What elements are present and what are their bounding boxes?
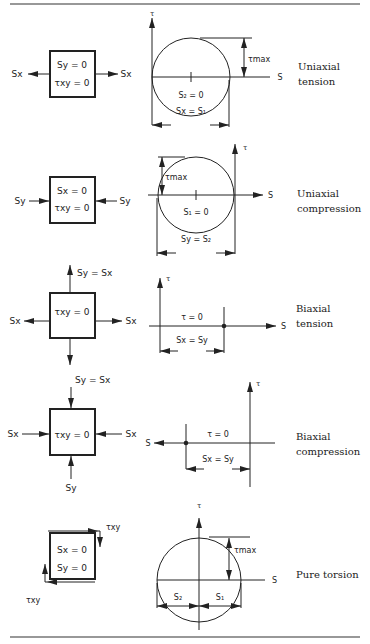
row-biaxial-tension: τxy = 0 Sy = Sx Sx Sx τ S τ = 0 Sx = Sy … [9,265,333,365]
top-load-label: Sy = Sx [77,268,113,278]
case-label-line1: Pure torsion [296,569,359,580]
row-pure-torsion: Sx = 0 Sy = 0 τxy τxy τ S τmax [26,502,359,630]
tau-axis-label: τ [243,144,247,152]
right-load-label: Sx [120,69,132,79]
stress-element: Sy = 0 τxy = 0 Sx Sx [11,51,132,97]
stress-element: Sx = 0 τxy = 0 Sy Sy [14,177,131,223]
element-line2: Sy = 0 [57,563,87,573]
tau-axis-label: τ [150,10,154,18]
top-load-label: Sy = Sx [75,375,111,385]
element-line1: Sx = 0 [57,545,87,555]
element-line1: Sy = 0 [57,60,87,70]
dim-label: Sx = Sy [202,455,234,464]
left-load-label: Sy [14,196,26,206]
mohr-circle-diagram: τ S τmax S₂ S₁ [157,502,277,630]
case-label-line2: compression [296,446,361,457]
s-axis-label: S [268,191,273,200]
element-line2: τxy = 0 [54,78,89,88]
shear-arrowhead-right [97,537,103,547]
element-line1: τxy = 0 [54,430,89,440]
tau-axis-label: τ [166,275,170,283]
case-label-line1: Biaxial [296,431,331,442]
s-axis-label: S [272,576,277,585]
mohr-circle-diagram: τ S τ = 0 Sx = Sy [149,275,286,353]
shear-arrowhead-left [42,564,48,574]
mohr-circle-diagram: τ S S₁ = 0 τmax Sy = S₂ [148,144,273,256]
s1-label: S₁ [216,593,224,602]
dim-label: Sy = S₂ [181,235,211,244]
stress-element: τxy = 0 Sy = Sx Sx Sx [9,265,137,365]
row-biaxial-compression: τxy = 0 Sy = Sx Sy Sx Sx τ S τ = 0 Sx = … [7,375,360,493]
tau-max-label: τmax [165,173,188,182]
center-label: S₂ = 0 [178,91,203,100]
shear-label-top: τxy [106,523,121,532]
case-label-line1: Biaxial [296,303,331,314]
tau-max-label: τmax [248,55,271,64]
right-load-label: Sy [119,196,131,206]
s-axis-label: S [277,73,282,82]
left-load-label: Sx [11,69,23,79]
stress-point [184,441,189,446]
case-label-line2: tension [296,318,334,329]
row-uniaxial-compression: Sx = 0 τxy = 0 Sy Sy τ S S₁ = 0 τmax Sy … [14,144,361,256]
element-square [50,177,95,223]
element-square [50,51,95,97]
mohr-circle-diagram: τ S τ = 0 Sx = Sy [145,380,275,487]
s2-label: S₂ [174,593,182,602]
shear-label-bottom: τxy [26,596,41,605]
stress-point [222,324,227,329]
case-label-line2: compression [297,203,362,214]
s-axis-label: S [145,439,150,448]
point-label: τ = 0 [181,313,203,322]
s-axis-label: S [281,322,286,331]
dim-label: Sx = Sy [176,336,208,345]
point-label: τ = 0 [207,430,229,439]
bottom-load-label: Sy [65,483,77,493]
left-load-label: Sx [7,429,19,439]
case-label-line2: tension [298,76,336,87]
stress-element: Sx = 0 Sy = 0 τxy τxy [26,523,121,605]
row-uniaxial-tension: Sy = 0 τxy = 0 Sx Sx τ S S₂ = 0 τmax Sx … [11,10,340,127]
right-load-label: Sx [125,316,137,326]
tau-axis-label: τ [197,502,201,510]
case-label-line1: Uniaxial [298,61,340,72]
element-line1: τxy = 0 [54,307,89,317]
mohr-circle-diagram: τ S S₂ = 0 τmax Sx = S₁ [150,10,283,127]
stress-states-figure: Sy = 0 τxy = 0 Sx Sx τ S S₂ = 0 τmax Sx … [0,0,370,644]
stress-element: τxy = 0 Sy = Sx Sy Sx Sx [7,375,137,493]
right-load-label: Sx [125,429,137,439]
tau-axis-label: τ [256,380,260,388]
dim-label: Sx = S₁ [176,107,206,116]
center-label: S₁ = 0 [183,208,208,217]
element-line2: τxy = 0 [54,203,89,213]
case-label-line1: Uniaxial [297,188,339,199]
left-load-label: Sx [9,316,21,326]
tau-max-label: τmax [234,546,257,555]
element-line1: Sx = 0 [57,186,87,196]
